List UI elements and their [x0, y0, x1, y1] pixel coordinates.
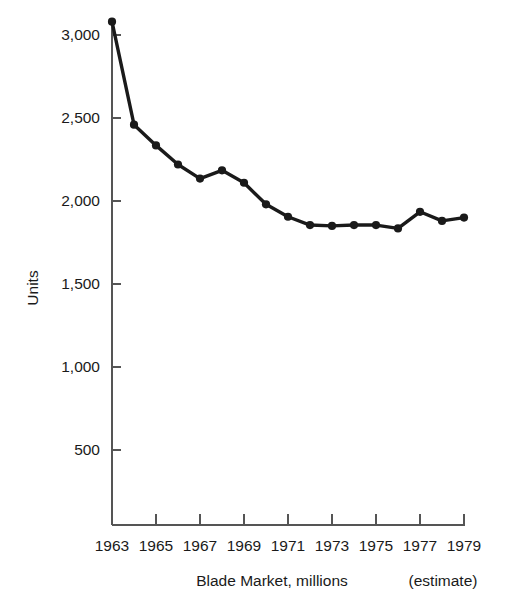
y-tick-label-500: 500 — [74, 441, 100, 458]
data-point-1970 — [262, 200, 270, 208]
data-point-1975 — [372, 221, 380, 229]
y-axis-title: Units — [24, 270, 41, 306]
data-point-1978 — [438, 217, 446, 225]
y-tick-label-2000: 2,000 — [61, 192, 100, 209]
blade-market-line-chart: 5001,0001,5002,0002,5003,000 Units 19631… — [0, 0, 508, 610]
data-point-1969 — [240, 179, 248, 187]
x-tick-label-1973: 1973 — [315, 537, 349, 554]
data-point-1979 — [460, 214, 468, 222]
data-point-1973 — [328, 222, 336, 230]
data-point-1974 — [350, 221, 358, 229]
chart-background — [0, 0, 508, 610]
x-axis-tick-labels: 196319651967196919711973197519771979 — [95, 537, 481, 554]
x-tick-label-1965: 1965 — [139, 537, 173, 554]
data-point-1964 — [130, 121, 138, 129]
x-tick-label-1975: 1975 — [359, 537, 393, 554]
chart-caption: Blade Market, millions (estimate) — [196, 572, 477, 589]
data-point-1977 — [416, 208, 424, 216]
data-point-1971 — [284, 213, 292, 221]
data-point-1966 — [174, 160, 182, 168]
x-tick-label-1977: 1977 — [403, 537, 437, 554]
data-point-1968 — [218, 166, 226, 174]
x-tick-label-1969: 1969 — [227, 537, 261, 554]
data-point-1976 — [394, 224, 402, 232]
y-tick-label-1000: 1,000 — [61, 358, 100, 375]
x-tick-label-1963: 1963 — [95, 537, 129, 554]
data-point-1972 — [306, 221, 314, 229]
x-axis-caption: Blade Market, millions — [196, 572, 348, 589]
data-point-1967 — [196, 174, 204, 182]
y-tick-label-1500: 1,500 — [61, 275, 100, 292]
estimate-annotation: (estimate) — [409, 572, 478, 589]
x-tick-label-1967: 1967 — [183, 537, 217, 554]
y-tick-label-2500: 2,500 — [61, 109, 100, 126]
x-tick-label-1979: 1979 — [447, 537, 481, 554]
data-point-1963 — [108, 18, 116, 26]
x-tick-label-1971: 1971 — [271, 537, 305, 554]
y-tick-label-3000: 3,000 — [61, 26, 100, 43]
data-point-1965 — [152, 141, 160, 149]
